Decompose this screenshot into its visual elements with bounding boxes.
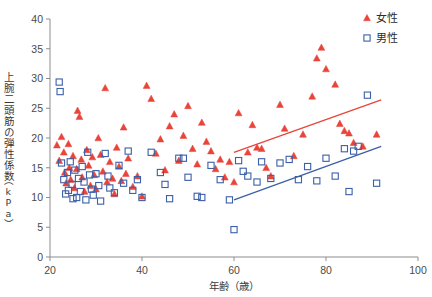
data-point-female (53, 142, 60, 148)
data-point-male (167, 196, 173, 202)
data-point-female (373, 131, 380, 137)
x-axis-title: 年齢（歳） (209, 280, 259, 292)
data-point-female (180, 132, 187, 138)
data-point-female (364, 14, 371, 20)
x-axis-title-group: 年齢（歳） (209, 280, 259, 292)
data-point-female (139, 193, 146, 199)
legend-label: 男性 (376, 31, 398, 45)
data-point-male (254, 179, 260, 185)
data-point-male (125, 148, 131, 154)
data-point-male (67, 159, 73, 165)
data-point-female (231, 178, 238, 184)
data-point-male (162, 181, 168, 187)
scatter-chart: 上腕二頭筋の弾性係数 （kPa） 05101520253035402040608… (0, 0, 432, 297)
data-point-female (194, 161, 201, 167)
y-tick-label: 5 (37, 221, 43, 233)
data-point-male (341, 146, 347, 152)
data-point-female (175, 157, 182, 163)
data-point-male (346, 188, 352, 194)
data-point-female (89, 153, 96, 159)
data-point-female (148, 95, 155, 101)
y-tick-label: 40 (31, 13, 43, 25)
data-point-female (78, 156, 85, 162)
data-point-male (236, 158, 242, 164)
data-point-female (85, 162, 92, 168)
data-point-male (374, 180, 380, 186)
data-point-female (300, 131, 307, 137)
data-point-male (364, 92, 370, 98)
data-point-female (332, 81, 339, 87)
trend-line-male (234, 146, 381, 200)
legend-label: 女性 (376, 11, 398, 25)
axes: 051015202530354020406080100 (31, 13, 427, 276)
y-tick-label: 10 (31, 191, 43, 203)
data-point-female (60, 149, 67, 155)
data-point-female (323, 65, 330, 71)
x-tick-label: 20 (44, 264, 56, 276)
data-point-female (208, 147, 215, 153)
data-point-male (56, 79, 62, 85)
data-point-male (332, 173, 338, 179)
data-point-female (309, 93, 316, 99)
legend: 女性男性 (364, 11, 398, 45)
y-tick-label: 20 (31, 132, 43, 144)
x-tick-label: 40 (136, 264, 148, 276)
data-point-female (277, 101, 284, 107)
data-point-female (336, 120, 343, 126)
data-points (53, 44, 380, 233)
data-point-female (350, 139, 357, 145)
data-point-female (198, 119, 205, 125)
y-tick-label: 25 (31, 102, 43, 114)
data-point-male (98, 198, 104, 204)
chart-svg: 051015202530354020406080100 女性男性 年齢（歳） (0, 0, 432, 297)
data-point-female (106, 158, 113, 164)
data-point-female (120, 124, 127, 130)
data-point-female (95, 134, 102, 140)
data-point-female (235, 109, 242, 115)
data-point-female (134, 172, 141, 178)
data-point-female (281, 125, 288, 131)
y-tick-label: 0 (37, 251, 43, 263)
data-point-female (166, 123, 173, 129)
data-point-female (217, 156, 224, 162)
y-tick-label: 35 (31, 43, 43, 55)
x-tick-label: 80 (320, 264, 332, 276)
data-point-female (74, 107, 81, 113)
data-point-female (76, 113, 83, 119)
data-point-male (277, 160, 283, 166)
data-point-male (323, 155, 329, 161)
data-point-male (305, 163, 311, 169)
data-point-female (58, 133, 65, 139)
data-point-female (157, 136, 164, 142)
data-point-male (180, 155, 186, 161)
data-point-male (185, 174, 191, 180)
data-point-female (290, 152, 297, 158)
data-point-female (171, 111, 178, 117)
data-point-female (70, 152, 77, 158)
data-point-male (83, 197, 89, 203)
data-point-male (314, 178, 320, 184)
data-point-female (189, 145, 196, 151)
data-point-female (113, 144, 120, 150)
data-point-female (143, 82, 150, 88)
data-point-female (318, 44, 325, 50)
data-point-female (244, 149, 251, 155)
x-tick-label: 60 (228, 264, 240, 276)
trend-line-female (234, 100, 381, 152)
data-point-female (102, 84, 109, 90)
data-point-female (185, 102, 192, 108)
data-point-male (57, 88, 63, 94)
data-point-female (226, 158, 233, 164)
data-point-female (122, 170, 129, 176)
data-point-female (129, 183, 136, 189)
data-point-male (90, 192, 96, 198)
data-point-female (203, 138, 210, 144)
data-point-female (65, 140, 72, 146)
data-point-male (208, 162, 214, 168)
data-point-female (313, 55, 320, 61)
x-tick-label: 100 (409, 264, 427, 276)
data-point-female (125, 155, 132, 161)
data-point-male (231, 227, 237, 233)
data-point-male (79, 163, 85, 169)
data-point-male (364, 35, 370, 41)
